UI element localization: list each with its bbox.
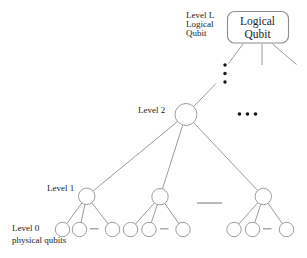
level0-node xyxy=(142,222,156,236)
tree-edge xyxy=(186,115,263,197)
level0-node xyxy=(176,222,190,236)
level0-node xyxy=(227,222,241,236)
level0-nodes xyxy=(55,222,293,236)
level2-child-edges xyxy=(87,115,264,197)
horizontal-ellipsis xyxy=(238,112,258,116)
level1-node xyxy=(79,188,95,204)
level1-node xyxy=(152,189,168,205)
ellipsis-dot xyxy=(223,63,226,66)
level1-nodes xyxy=(79,188,272,205)
level1-node xyxy=(255,188,271,204)
ellipsis-dot xyxy=(238,112,242,116)
tree-diagram-canvas: Logical Qubit Leve xyxy=(0,0,307,258)
level2-label: Level 2 xyxy=(138,105,165,115)
level0-node xyxy=(279,222,293,236)
level0-label-line1: Level 0 xyxy=(12,223,40,233)
level0-node xyxy=(105,222,119,236)
level0-label-line2: physical qubits xyxy=(12,235,67,245)
level0-node xyxy=(72,222,86,236)
tree-edge xyxy=(160,115,186,197)
level-l-annotation-line3: Qubit xyxy=(186,28,207,38)
box-child-edges xyxy=(229,44,297,65)
level2-node xyxy=(175,104,197,126)
logical-qubit-box-label-line1: Logical xyxy=(240,15,275,28)
ellipsis-dot xyxy=(246,112,250,116)
logical-qubit-box-label-line2: Qubit xyxy=(244,28,271,40)
level0-node xyxy=(123,222,137,236)
tree-diagram-figure: Logical Qubit Leve xyxy=(0,0,307,258)
ellipsis-dot xyxy=(223,80,226,83)
tree-edge xyxy=(229,44,244,64)
tree-edge xyxy=(273,44,297,65)
level0-node xyxy=(245,222,259,236)
level1-label: Level 1 xyxy=(47,183,74,193)
level-l-annotation: Level L Logical Qubit xyxy=(186,10,214,38)
tree-edge xyxy=(87,115,186,197)
ellipsis-dot xyxy=(254,112,258,116)
vertical-ellipsis xyxy=(223,63,226,83)
ellipsis-dot xyxy=(223,72,226,75)
